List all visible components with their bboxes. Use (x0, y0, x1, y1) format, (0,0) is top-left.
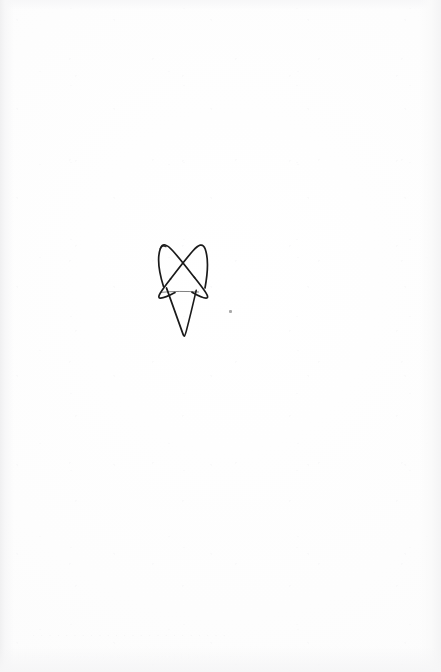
stroke-tail-right (184, 290, 196, 336)
scanned-page: · · · · · · · · · · · · · · · · · · · · … (0, 0, 441, 672)
star-glyph-drawing (0, 0, 441, 672)
stroke-left-upper-arc (159, 245, 195, 287)
stroke-tail-left (167, 288, 185, 336)
stroke-right-upper-arc (171, 245, 208, 288)
stray-ink-speck (229, 310, 232, 313)
stroke-left-apex-flick (160, 246, 166, 249)
ghost-showthrough-line-1: · · · · · · · · · · · · · · · · · · · · … (32, 630, 368, 643)
ghost-showthrough-line-2: · · · · · · · · · · · · · · · · · · · · … (18, 652, 424, 663)
star-glyph-svg (0, 0, 441, 672)
